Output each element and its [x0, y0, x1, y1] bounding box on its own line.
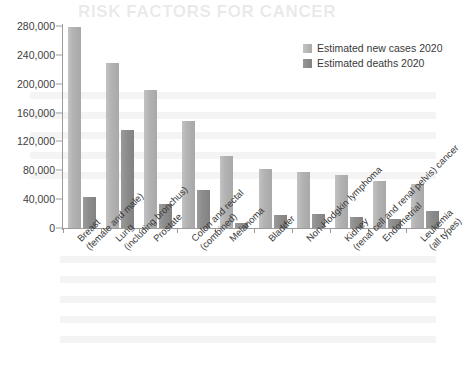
x-axis-tick-mark — [330, 228, 331, 233]
y-axis-tick-label: 160,000 — [17, 107, 55, 119]
bar-group — [68, 26, 106, 228]
bar-group — [259, 26, 297, 228]
bar-new-cases[interactable] — [68, 27, 81, 228]
y-axis-tick-label: 40,000 — [23, 193, 55, 205]
y-axis-tick-mark — [56, 228, 62, 229]
legend-label: Estimated new cases 2020 — [317, 42, 443, 54]
y-axis-tick-mark — [56, 54, 62, 55]
y-axis-tick-label: 120,000 — [17, 135, 55, 147]
legend-item-deaths: Estimated deaths 2020 — [303, 57, 443, 69]
legend-swatch-icon — [303, 59, 312, 68]
legend-swatch-icon — [303, 44, 312, 53]
legend-item-new-cases: Estimated new cases 2020 — [303, 42, 443, 54]
y-axis-tick-mark — [56, 26, 62, 27]
y-axis-tick-label: 280,000 — [17, 20, 55, 32]
chart-legend: Estimated new cases 2020 Estimated death… — [303, 42, 443, 72]
y-axis-tick-mark — [56, 83, 62, 84]
y-axis-tick-mark — [56, 141, 62, 142]
y-axis-tick-label: 240,000 — [17, 49, 55, 61]
y-axis-tick-label: 200,000 — [17, 78, 55, 90]
y-axis-tick-label: 0 — [49, 222, 55, 234]
bar-new-cases[interactable] — [182, 121, 195, 228]
x-axis-tick-mark — [406, 228, 407, 233]
bar-new-cases[interactable] — [259, 169, 272, 228]
x-axis-tick-mark — [292, 228, 293, 233]
x-axis-tick-mark — [63, 228, 64, 233]
y-axis-tick-mark — [56, 170, 62, 171]
y-axis-tick-mark — [56, 199, 62, 200]
y-axis-tick-mark — [56, 112, 62, 113]
x-axis-tick-mark — [177, 228, 178, 233]
y-axis-tick-label: 80,000 — [23, 164, 55, 176]
x-axis-tick-mark — [254, 228, 255, 233]
legend-label: Estimated deaths 2020 — [317, 57, 424, 69]
bar-group — [182, 26, 220, 228]
bar-new-cases[interactable] — [297, 172, 310, 228]
